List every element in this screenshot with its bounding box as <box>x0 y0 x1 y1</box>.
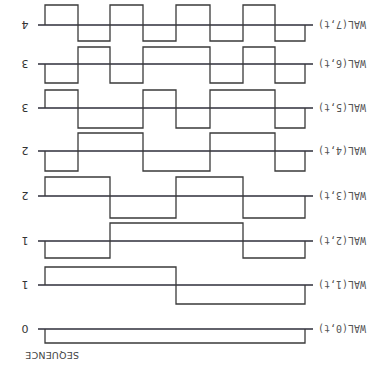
walsh-row-7: WAL(7,t)4 <box>22 5 367 41</box>
sequency-number: 0 <box>22 322 29 335</box>
walsh-waveform <box>45 177 305 218</box>
walsh-row-5: WAL(5,t)3 <box>22 90 367 128</box>
walsh-function-label: WAL(7,t) <box>318 19 366 30</box>
sequency-number: 4 <box>22 18 29 31</box>
walsh-waveform <box>45 90 305 128</box>
sequency-number: 1 <box>22 234 29 247</box>
walsh-waveforms-canvas: WAL(7,t)4WAL(6,t)3WAL(5,t)3WAL(4,t)2WAL(… <box>0 0 381 377</box>
sequency-number: 3 <box>22 101 29 114</box>
walsh-function-diagram: WAL(7,t)4WAL(6,t)3WAL(5,t)3WAL(4,t)2WAL(… <box>0 0 381 377</box>
walsh-row-2: WAL(2,t)1 <box>22 223 367 258</box>
sequency-column-header: SEQUENCE <box>25 350 79 361</box>
walsh-waveform <box>45 133 305 171</box>
walsh-function-label: WAL(4,t) <box>318 145 366 156</box>
walsh-row-0: WAL(0,t)0 <box>22 322 367 343</box>
sequency-number: 2 <box>22 144 29 157</box>
walsh-function-label: WAL(3,t) <box>318 190 366 201</box>
walsh-function-label: WAL(5,t) <box>318 102 366 113</box>
sequency-number: 1 <box>22 278 29 291</box>
walsh-function-label: WAL(0,t) <box>318 323 366 334</box>
walsh-function-label: WAL(1,t) <box>318 279 366 290</box>
walsh-waveform <box>45 5 305 41</box>
waveform-rows: WAL(7,t)4WAL(6,t)3WAL(5,t)3WAL(4,t)2WAL(… <box>22 5 367 343</box>
walsh-row-1: WAL(1,t)1 <box>22 267 367 304</box>
walsh-function-label: WAL(6,t) <box>318 58 366 69</box>
sequency-number: 2 <box>22 189 29 202</box>
sequency-header: SEQUENCE <box>25 350 79 361</box>
walsh-waveform <box>45 329 305 343</box>
walsh-row-3: WAL(3,t)2 <box>22 177 367 218</box>
walsh-waveform <box>45 47 305 83</box>
sequency-number: 3 <box>22 57 29 70</box>
walsh-row-4: WAL(4,t)2 <box>22 133 367 171</box>
walsh-function-label: WAL(2,t) <box>318 235 366 246</box>
walsh-row-6: WAL(6,t)3 <box>22 47 367 83</box>
